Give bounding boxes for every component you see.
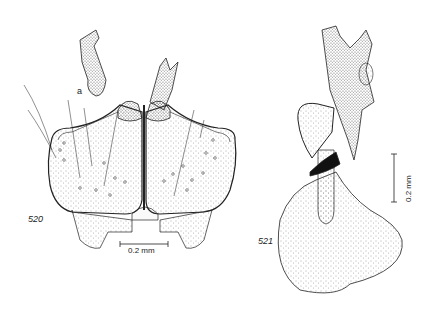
scale-bar-label-520: 0.2 mm xyxy=(128,246,155,255)
inset-a xyxy=(80,30,106,96)
figure-520 xyxy=(24,58,236,248)
figure-520-drawing xyxy=(0,0,436,312)
figure-521 xyxy=(278,26,402,293)
figure-number-520: 520 xyxy=(28,214,43,224)
inset-label-a: a xyxy=(77,86,82,96)
scale-bar-label-521: 0.2 mm xyxy=(404,175,413,202)
figure-number-521: 521 xyxy=(258,236,273,246)
